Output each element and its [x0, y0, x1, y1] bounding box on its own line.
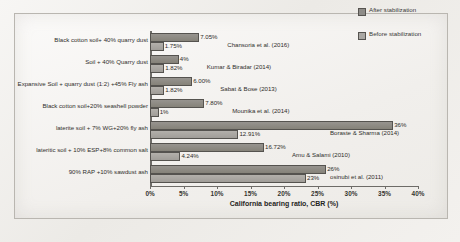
bar-group: Black cotton soil+20% seashell powder7.8…	[0, 99, 460, 117]
bar-group: Soil + 40% Quarry dust4%1.82%Kumar & Bir…	[0, 55, 460, 73]
x-tick-label: 40%	[412, 190, 425, 197]
citation-annotation: Boraste & Sharma (2014)	[330, 129, 399, 136]
x-tick-label: 5%	[179, 190, 188, 197]
citation-annotation: Amu & Salami (2010)	[292, 151, 350, 158]
bar-value-label: 1%	[160, 108, 169, 115]
bar-group: Expansive Soil + quarry dust (1:2) +45% …	[0, 77, 460, 95]
citation-annotation: Chansoria et al. (2016)	[227, 41, 289, 48]
bar-before-stabilization[interactable]	[150, 42, 164, 51]
bar-value-label: 16.72%	[265, 143, 286, 150]
bar-group: laterite soil + 7% WG+20% fly ash36%12.9…	[0, 121, 460, 139]
bar-before-stabilization[interactable]	[150, 64, 164, 73]
category-label: 90% RAP +10% sawdust ash	[0, 168, 148, 175]
bar-value-label: 7.05%	[200, 33, 217, 40]
category-label: Black cotton soil+20% seashell powder	[0, 102, 148, 109]
bar-value-label: 26%	[327, 165, 339, 172]
x-tick-label: 15%	[244, 190, 257, 197]
x-tick-label: 30%	[345, 190, 358, 197]
x-tick-label: 35%	[378, 190, 391, 197]
chart-figure: After stabilization Before stabilization…	[0, 0, 460, 242]
bar-before-stabilization[interactable]	[150, 130, 238, 139]
bar-value-label: 12.91%	[239, 130, 260, 137]
citation-annotation: Mounika et al. (2014)	[232, 107, 289, 114]
x-tick	[150, 186, 151, 189]
bar-before-stabilization[interactable]	[150, 152, 180, 161]
bar-value-label: 23%	[307, 174, 319, 181]
bar-group: Black cotton soil+ 40% quarry dust7.05%1…	[0, 33, 460, 51]
x-axis-title: California bearing ratio, CBR (%)	[150, 200, 418, 207]
citation-annotation: Kumar & Biradar (2014)	[207, 63, 271, 70]
bar-value-label: 6.00%	[193, 77, 210, 84]
bar-value-label: 4%	[180, 55, 189, 62]
x-tick	[385, 186, 386, 189]
bar-after-stabilization[interactable]	[150, 143, 264, 152]
bar-before-stabilization[interactable]	[150, 86, 164, 95]
bar-value-label: 36%	[394, 121, 406, 128]
category-label: lateritic soil + 10% ESP+8% common salt	[0, 146, 148, 153]
bar-group: 90% RAP +10% sawdust ash26%23%osinubi et…	[0, 165, 460, 183]
bar-before-stabilization[interactable]	[150, 108, 159, 117]
bar-after-stabilization[interactable]	[150, 165, 326, 174]
x-tick	[351, 186, 352, 189]
x-tick-label: 25%	[311, 190, 324, 197]
bar-value-label: 1.75%	[165, 42, 182, 49]
category-label: Soil + 40% Quarry dust	[0, 58, 148, 65]
bar-value-label: 4.24%	[181, 152, 198, 159]
citation-annotation: osinubi et al. (2011)	[330, 173, 383, 180]
x-tick-label: 10%	[211, 190, 224, 197]
bar-value-label: 1.82%	[165, 86, 182, 93]
bar-after-stabilization[interactable]	[150, 99, 204, 108]
x-tick-label: 20%	[278, 190, 291, 197]
x-tick	[318, 186, 319, 189]
plot-canvas: 0%5%10%15%20%25%30%35%40% Black cotton s…	[0, 0, 460, 242]
category-label: Black cotton soil+ 40% quarry dust	[0, 36, 148, 43]
x-tick	[284, 186, 285, 189]
category-label: laterite soil + 7% WG+20% fly ash	[0, 124, 148, 131]
bar-value-label: 1.82%	[165, 64, 182, 71]
x-tick	[251, 186, 252, 189]
x-tick-label: 0%	[145, 190, 154, 197]
x-tick	[184, 186, 185, 189]
bar-before-stabilization[interactable]	[150, 174, 306, 183]
x-tick	[418, 186, 419, 189]
x-tick	[217, 186, 218, 189]
bar-value-label: 7.80%	[205, 99, 222, 106]
bar-group: lateritic soil + 10% ESP+8% common salt1…	[0, 143, 460, 161]
category-label: Expansive Soil + quarry dust (1:2) +45% …	[0, 80, 148, 87]
citation-annotation: Sabat & Bose (2013)	[220, 85, 277, 92]
